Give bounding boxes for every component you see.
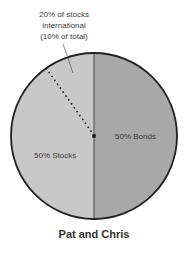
slice-label-stocks: 50% Stocks xyxy=(34,151,76,160)
annotation-line-2: international xyxy=(42,21,86,30)
slice-label-bonds: 50% Bonds xyxy=(115,132,156,141)
pie-center-dot xyxy=(92,134,95,137)
annotation-line-1: 20% of stocks xyxy=(39,10,89,19)
pie-slice-stocks xyxy=(11,53,94,219)
annotation-line-3: (10% of total) xyxy=(40,32,88,41)
pie-chart: 20% of stocks international (10% of tota… xyxy=(0,0,190,254)
chart-title: Pat and Chris xyxy=(59,228,130,240)
